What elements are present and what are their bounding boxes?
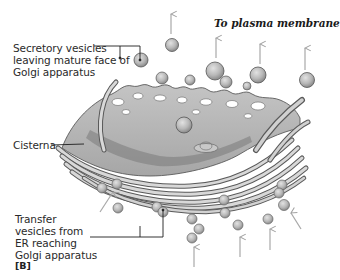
secretory-vesicles-label: Secretory vesicles leaving mature face o… <box>13 42 130 78</box>
plasma-membrane-label: To plasma membrane <box>214 17 340 29</box>
transfer-vesicles-label: Transfer vesicles from ER reaching Golgi… <box>15 213 97 261</box>
figure-panel-label: [B] <box>15 260 31 271</box>
cisterna-label: Cisterna <box>13 139 56 151</box>
budding-vesicles <box>156 62 266 90</box>
